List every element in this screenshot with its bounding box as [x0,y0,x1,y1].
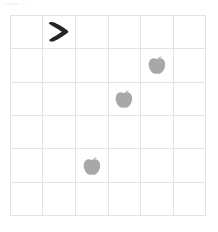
cell-r6c4[interactable] [108,183,141,217]
cell-r6c2[interactable] [43,183,76,217]
cell-r6c5[interactable] [141,183,174,217]
cell-r5c6[interactable] [173,149,206,183]
cell-r5c3[interactable] [75,149,108,183]
apple-icon [114,88,134,110]
cell-r3c1[interactable] [10,82,43,116]
cell-r3c4[interactable] [108,82,141,116]
cell-r3c5[interactable] [141,82,174,116]
cell-r4c6[interactable] [173,116,206,150]
cell-r5c1[interactable] [10,149,43,183]
cell-r2c3[interactable] [75,49,108,83]
cell-r6c3[interactable] [75,183,108,217]
cell-r4c1[interactable] [10,116,43,150]
watermark-text: ▪ ▬▬ ▪▪ [2,0,27,7]
cell-r6c6[interactable] [173,183,206,217]
apple-icon [82,155,102,177]
cell-r1c6[interactable] [173,15,206,49]
cell-r1c3[interactable] [75,15,108,49]
cell-r1c2[interactable] [43,15,76,49]
cell-r3c3[interactable] [75,82,108,116]
cell-r2c5[interactable] [141,49,174,83]
cell-r1c5[interactable] [141,15,174,49]
cell-r2c1[interactable] [10,49,43,83]
cell-r1c4[interactable] [108,15,141,49]
cell-r2c4[interactable] [108,49,141,83]
cell-r2c2[interactable] [43,49,76,83]
cell-r5c4[interactable] [108,149,141,183]
cell-r5c2[interactable] [43,149,76,183]
cell-r1c1[interactable] [10,15,43,49]
apple-icon [147,54,167,76]
puzzle-canvas: ▪ ▬▬ ▪▪ [0,0,218,232]
grid-board[interactable] [10,15,206,216]
cell-r3c2[interactable] [43,82,76,116]
cell-r4c4[interactable] [108,116,141,150]
cell-r4c3[interactable] [75,116,108,150]
cell-r3c6[interactable] [173,82,206,116]
cell-r5c5[interactable] [141,149,174,183]
cell-r6c1[interactable] [10,183,43,217]
cell-r2c6[interactable] [173,49,206,83]
cell-r4c5[interactable] [141,116,174,150]
cell-r4c2[interactable] [43,116,76,150]
cell-layer [10,15,206,216]
chevron-right-icon [46,20,72,44]
